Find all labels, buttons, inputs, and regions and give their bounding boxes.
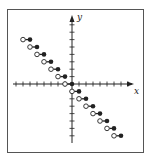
open-endpoint-icon [28, 45, 33, 50]
open-endpoint-icon [84, 104, 89, 109]
open-endpoint-icon [77, 97, 82, 102]
open-endpoint-icon [49, 67, 54, 72]
closed-endpoint-icon [49, 60, 54, 65]
closed-endpoint-icon [42, 52, 47, 57]
open-endpoint-icon [105, 126, 110, 131]
y-axis-arrow-icon [70, 15, 75, 22]
open-endpoint-icon [112, 134, 117, 139]
closed-endpoint-icon [105, 119, 110, 124]
open-endpoint-icon [98, 119, 103, 124]
open-endpoint-icon [42, 60, 47, 65]
closed-endpoint-icon [98, 111, 103, 116]
closed-endpoint-icon [112, 126, 117, 131]
closed-endpoint-icon [28, 37, 33, 42]
open-endpoint-icon [21, 37, 26, 42]
closed-endpoint-icon [63, 74, 68, 79]
closed-endpoint-icon [119, 134, 124, 139]
closed-endpoint-icon [84, 97, 89, 102]
closed-endpoint-icon [77, 89, 82, 94]
x-axis-label: x [134, 86, 139, 96]
open-endpoint-icon [63, 82, 68, 87]
closed-endpoint-icon [70, 82, 75, 87]
open-endpoint-icon [91, 111, 96, 116]
open-endpoint-icon [70, 89, 75, 94]
closed-endpoint-icon [91, 104, 96, 109]
open-endpoint-icon [56, 74, 61, 79]
open-endpoint-icon [35, 52, 40, 57]
y-axis-label: y [76, 12, 83, 22]
step-function-plot: y x [0, 0, 150, 158]
closed-endpoint-icon [35, 45, 40, 50]
closed-endpoint-icon [56, 67, 61, 72]
axes [13, 15, 134, 143]
